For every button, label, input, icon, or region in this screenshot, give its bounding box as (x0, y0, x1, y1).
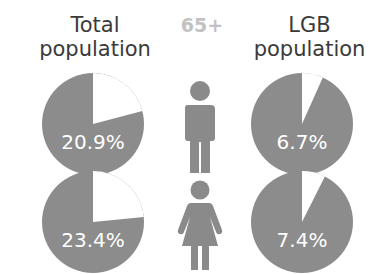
total-population-header: Totalpopulation (20, 13, 170, 61)
pie-value: 6.7% (250, 130, 354, 154)
pie-chart-icon (250, 170, 354, 274)
pie-chart-icon (41, 170, 145, 274)
age-group-header: 65+ (172, 13, 232, 37)
pie-value: 20.9% (41, 130, 145, 154)
pie-value: 23.4% (41, 228, 145, 252)
lgb-population-header: LGBpopulation (237, 13, 382, 61)
lgb-population-label: LGBpopulation (237, 13, 382, 61)
female-icon (176, 180, 224, 272)
pie-total-female: 23.4% (41, 170, 145, 274)
pie-chart-icon (41, 72, 145, 176)
pie-value: 7.4% (250, 228, 354, 252)
male-icon (181, 80, 219, 175)
pie-lgb-male: 6.7% (250, 72, 354, 176)
pie-chart-icon (250, 72, 354, 176)
total-population-label: Totalpopulation (20, 13, 170, 61)
pie-lgb-female: 7.4% (250, 170, 354, 274)
pie-total-male: 20.9% (41, 72, 145, 176)
